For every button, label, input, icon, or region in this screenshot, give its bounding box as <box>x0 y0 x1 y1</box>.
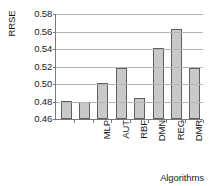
x-axis-tick-label-rbf: RBF <box>139 120 149 162</box>
x-axis-tick-label-dmr: DMR <box>194 120 204 162</box>
y-axis-tick-mark <box>53 67 56 68</box>
gridline <box>56 32 203 33</box>
rrse-bar-chart: RRSE 0.460.480.500.520.540.560.58 MLPAUT… <box>0 0 209 186</box>
bar-dmn <box>116 68 127 119</box>
y-axis-tick-label: 0.54 <box>22 44 52 54</box>
y-axis-tick-label: 0.50 <box>22 79 52 89</box>
y-axis-tick-label: 0.46 <box>22 114 52 124</box>
gridline <box>56 102 203 103</box>
x-axis-tick-label-aut: AUT <box>121 120 131 162</box>
plot-area <box>55 14 203 120</box>
x-axis-tick-label-dmn: DMN <box>157 120 167 162</box>
gridline <box>56 84 203 85</box>
gridline <box>56 14 203 15</box>
x-axis-title: Algorithms <box>160 172 204 183</box>
y-axis-title: RRSE <box>6 4 17 44</box>
y-axis-tick-mark <box>53 49 56 50</box>
y-axis-tick-mark <box>53 32 56 33</box>
y-axis-tick-label: 0.52 <box>22 62 52 72</box>
y-axis-tick-labels: 0.460.480.500.520.540.560.58 <box>22 14 52 119</box>
y-axis-tick-mark <box>53 14 56 15</box>
y-axis-tick-mark <box>53 102 56 103</box>
bar-pls <box>171 29 182 119</box>
bar-dtr <box>189 68 200 119</box>
gridline <box>56 67 203 68</box>
bar-mlp <box>61 101 72 119</box>
x-axis-tick-label-reg: REG <box>176 120 186 162</box>
x-axis-tick-label-mlp: MLP <box>102 120 112 162</box>
y-axis-tick-label: 0.56 <box>22 27 52 37</box>
y-axis-tick-label: 0.58 <box>22 9 52 19</box>
gridline <box>56 49 203 50</box>
x-axis-tick-labels: MLPAUTRBFDMNREGDMRPLSDTR <box>55 120 202 162</box>
bar-aut <box>79 102 90 120</box>
y-axis-tick-mark <box>53 84 56 85</box>
y-axis-tick-label: 0.48 <box>22 97 52 107</box>
